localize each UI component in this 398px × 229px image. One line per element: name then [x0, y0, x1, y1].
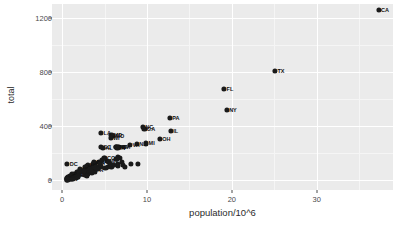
x-tick-label: 0 — [60, 195, 64, 204]
data-point-label: NJ — [139, 141, 146, 147]
gridline-major-horizontal — [52, 180, 393, 181]
y-tick-mark — [49, 179, 52, 180]
x-tick-mark — [62, 190, 63, 193]
x-tick-mark — [231, 190, 232, 193]
data-point — [122, 164, 127, 169]
data-point-label: IN — [120, 145, 126, 151]
data-point — [128, 161, 133, 166]
gridline-minor-vertical — [359, 4, 360, 190]
gridline-major-horizontal — [52, 72, 393, 73]
gridline-major-vertical — [232, 4, 233, 190]
x-axis-title: population/10^6 — [52, 207, 393, 218]
data-point-label: PA — [172, 115, 179, 121]
data-point-label: NY — [229, 107, 237, 113]
y-tick-mark — [49, 17, 52, 18]
data-point-label: DC — [70, 161, 78, 167]
data-point — [84, 173, 89, 178]
x-tick-mark — [147, 190, 148, 193]
gridline-major-vertical — [62, 4, 63, 190]
data-point-label: WI — [113, 135, 120, 141]
gridline-major-vertical — [147, 4, 148, 190]
data-point — [103, 165, 108, 170]
scatter-plot: total CATXFLNYGANCILPAOHMINJVAWAAZMATNIN… — [0, 0, 398, 229]
gridline-major-vertical — [317, 4, 318, 190]
x-tick-label: 30 — [312, 195, 320, 204]
data-point-label: VA — [132, 142, 139, 148]
gridline-minor-horizontal — [52, 45, 393, 46]
y-tick-mark — [49, 125, 52, 126]
data-point-label: NC — [145, 124, 153, 130]
data-point-label: CA — [381, 7, 389, 13]
data-point-label: MI — [149, 140, 155, 146]
gridline-major-horizontal — [52, 126, 393, 127]
gridline-minor-horizontal — [52, 99, 393, 100]
gridline-minor-vertical — [274, 4, 275, 190]
y-axis-title-text: total — [5, 86, 15, 103]
data-point — [135, 161, 140, 166]
plot-panel: CATXFLNYGANCILPAOHMINJVAWAAZMATNINMOMDWI… — [52, 4, 393, 190]
gridline-minor-vertical — [189, 4, 190, 190]
x-tick-mark — [316, 190, 317, 193]
data-point-label: AL — [105, 145, 112, 151]
y-axis-title: total — [2, 0, 18, 190]
x-tick-label: 10 — [143, 195, 151, 204]
x-tick-label: 20 — [228, 195, 236, 204]
data-point-label: FL — [227, 86, 234, 92]
data-point-label: IL — [173, 128, 178, 134]
y-tick-mark — [49, 71, 52, 72]
gridline-major-horizontal — [52, 18, 393, 19]
data-point-label: OH — [162, 136, 170, 142]
gridline-minor-horizontal — [52, 153, 393, 154]
data-point-label: TX — [277, 68, 284, 74]
data-point-label: LA — [104, 130, 111, 136]
